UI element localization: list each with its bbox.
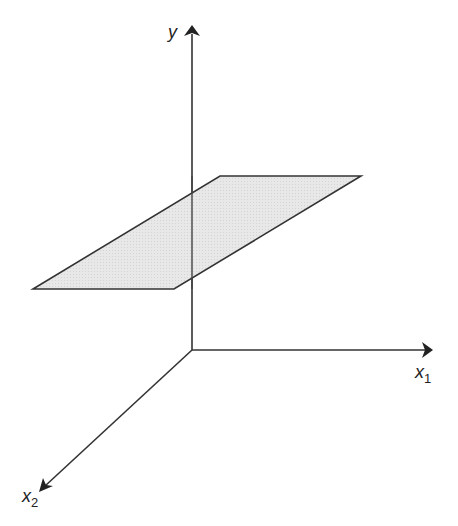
shaded-plane	[33, 176, 361, 289]
x1-axis-label: x1	[414, 362, 431, 386]
axes-diagram: y x1 x2	[0, 0, 458, 526]
x2-axis-label: x2	[21, 486, 38, 510]
y-axis-label: y	[166, 22, 178, 42]
x2-axis	[45, 350, 192, 486]
